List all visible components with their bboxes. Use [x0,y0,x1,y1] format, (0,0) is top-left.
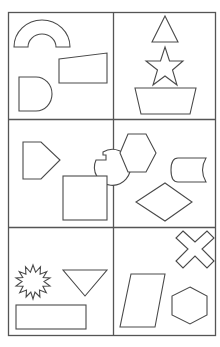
parallelogram-shape [120,274,165,327]
rectangle-shape [16,305,86,329]
rhombus-shape [136,183,192,221]
trapezoid-shape [59,53,107,83]
worksheet-svg [0,0,220,347]
cylinder-shape [171,158,206,182]
shapes-worksheet [0,0,220,347]
hexagon-pointy-shape [172,287,207,324]
cell-row1-col2 [135,16,196,114]
d-shape [19,77,52,111]
cell-row2-col2 [120,134,206,221]
star-shape [146,47,183,85]
pentagon-shape [23,142,60,179]
cell-row3-col2 [120,231,214,327]
semicircular-arch-shape [14,20,70,47]
triangle-shape [152,16,178,42]
square-shape [63,176,107,220]
cell-row1-col1 [14,20,107,111]
inverted-trapezoid-shape [135,88,196,114]
hexagon-shape [120,134,156,172]
inverted-triangle-shape [63,270,107,296]
cell-row2-col1 [23,142,130,220]
starburst-shape [16,265,50,299]
cell-row3-col1 [16,265,107,329]
cross-x-shape [176,231,214,268]
